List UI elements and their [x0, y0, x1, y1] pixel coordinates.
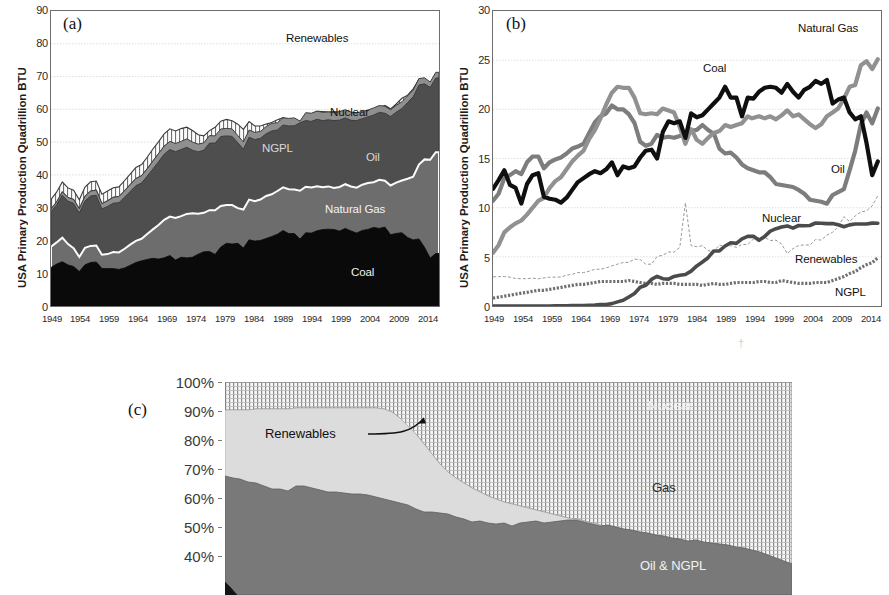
y-tick: 40 — [36, 169, 48, 181]
panel-a: USA Primary Production Quadrillion BTU 9… — [0, 0, 450, 340]
panel-a-y-ticks: 90 80 70 60 50 40 30 20 10 0 — [18, 0, 48, 340]
panel-a-label-natural-gas: Natural Gas — [325, 203, 385, 215]
x-tick: 1964 — [128, 313, 148, 324]
panel-b-label-coal: Coal — [703, 62, 726, 74]
panel-b-gridlines — [493, 60, 881, 257]
y-tick: 80 — [36, 37, 48, 49]
x-tick: 1979 — [215, 313, 235, 324]
x-tick: 1999 — [774, 313, 794, 324]
x-tick: 2014 — [418, 313, 438, 324]
panel-a-svg — [51, 11, 439, 306]
x-tick: 1969 — [600, 313, 620, 324]
panel-a-label-nuclear: Nuclear — [330, 106, 369, 118]
panel-b-label-nuclear: Nuclear — [762, 212, 801, 224]
x-tick: 1999 — [331, 313, 351, 324]
panel-a-label-oil: Oil — [366, 151, 380, 163]
scan-artifact-mark: † — [738, 337, 744, 349]
panel-b: USA Primary Production Quadrillion BTU 3… — [450, 0, 889, 340]
panel-b-series-renewables — [493, 196, 878, 279]
y-tick: 60 — [36, 103, 48, 115]
y-tick: 60% — [184, 490, 214, 507]
x-tick: 1979 — [658, 313, 678, 324]
x-tick: 1954 — [513, 313, 533, 324]
x-tick: 1994 — [745, 313, 765, 324]
panel-c-label-oil-ngpl: Oil & NGPL — [640, 558, 706, 573]
y-tick: 30 — [36, 202, 48, 214]
panel-b-label-oil: Oil — [831, 163, 845, 175]
x-tick: 1984 — [687, 313, 707, 324]
y-tick: 15 — [478, 153, 490, 165]
y-tick: 40% — [184, 548, 214, 565]
x-tick: 1954 — [70, 313, 90, 324]
panel-c-tag: (c) — [128, 400, 147, 420]
panel-b-x-ticks: 1949 1954 1959 1964 1969 1974 1979 1984 … — [450, 313, 889, 329]
y-tick: 0 — [42, 301, 48, 313]
x-tick: 2009 — [832, 313, 852, 324]
y-tick: 70% — [184, 461, 214, 478]
y-tick: 30 — [478, 4, 490, 16]
panel-a-tag: (a) — [63, 14, 82, 34]
panel-c-label-gas: Gas — [652, 480, 676, 495]
y-tick: 10 — [36, 268, 48, 280]
panel-a-plot-area — [50, 10, 440, 307]
y-tick: 20 — [36, 235, 48, 247]
y-tick: 90 — [36, 4, 48, 16]
x-tick: 1949 — [484, 313, 504, 324]
panel-a-label-ngpl: NGPL — [262, 142, 293, 154]
y-tick: 10 — [478, 202, 490, 214]
panel-b-y-ticks: 30 25 20 15 10 5 0 — [462, 0, 490, 340]
x-tick: 1989 — [716, 313, 736, 324]
x-tick: 1974 — [629, 313, 649, 324]
panel-c: (c) 100% 90% 80% 70% 60% 50% 40% — [0, 360, 889, 595]
panel-a-label-renewables: Renewables — [286, 32, 348, 44]
x-tick: 2014 — [861, 313, 881, 324]
x-tick: 1959 — [542, 313, 562, 324]
y-tick: 20 — [478, 103, 490, 115]
y-tick: 70 — [36, 70, 48, 82]
x-tick: 1964 — [571, 313, 591, 324]
panel-a-label-coal: Coal — [351, 266, 374, 278]
y-tick: 25 — [478, 54, 490, 66]
x-tick: 1969 — [157, 313, 177, 324]
x-tick: 1994 — [302, 313, 322, 324]
x-tick: 1949 — [42, 313, 62, 324]
panel-b-label-ngpl: NGPL — [835, 286, 866, 298]
x-tick: 1974 — [186, 313, 206, 324]
y-tick: 5 — [484, 252, 490, 264]
panel-c-y-ticks: 100% 90% 80% 70% 60% 50% 40% — [160, 360, 214, 595]
panel-b-label-renewables: Renewables — [795, 253, 857, 265]
panel-c-label-nuclear: Nuclear — [648, 398, 692, 413]
panel-b-tag: (b) — [506, 14, 526, 34]
y-tick: 50 — [36, 136, 48, 148]
panel-a-x-ticks: 1949 1954 1959 1964 1969 1974 1979 1984 … — [0, 313, 450, 329]
x-tick: 2004 — [803, 313, 823, 324]
y-tick: 80% — [184, 432, 214, 449]
y-tick: 90% — [184, 403, 214, 420]
y-tick: 50% — [184, 519, 214, 536]
x-tick: 2009 — [389, 313, 409, 324]
x-tick: 1984 — [244, 313, 264, 324]
x-tick: 1959 — [99, 313, 119, 324]
x-tick: 1989 — [273, 313, 293, 324]
panel-c-label-renewables: Renewables — [265, 426, 336, 441]
y-tick: 0 — [484, 301, 490, 313]
x-tick: 2004 — [360, 313, 380, 324]
y-tick: 100% — [176, 374, 214, 391]
panel-b-label-natural-gas: Natural Gas — [798, 22, 858, 34]
